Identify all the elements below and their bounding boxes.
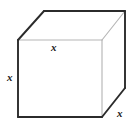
dimension-label-left: x	[7, 72, 13, 83]
dimension-label-top: x	[51, 42, 57, 53]
cube-front-face	[18, 40, 102, 117]
cube-figure: x x x	[0, 0, 136, 132]
cube-drawing	[0, 0, 136, 132]
dimension-label-right-diagonal: x	[117, 108, 123, 119]
